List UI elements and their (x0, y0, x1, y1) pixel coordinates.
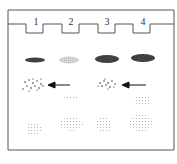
band-lane3-lower (96, 117, 112, 133)
lane-label-2: 2 (64, 16, 78, 27)
arrow-icon (122, 82, 146, 88)
band-lane2-faint (62, 96, 78, 100)
lane-label-3: 3 (100, 16, 114, 27)
band-lane4-upper (131, 54, 155, 62)
arrow-icon (48, 82, 70, 88)
band-lane1-lower (26, 122, 42, 136)
band-lane2-upper (59, 57, 79, 64)
lane-label-4: 4 (136, 16, 150, 27)
band-lane4-faint (134, 97, 150, 105)
gel-diagram (0, 0, 177, 164)
band-lane3-upper (95, 55, 119, 63)
band-lane3-speckled (97, 78, 115, 89)
band-lane2-lower (59, 117, 83, 131)
band-lane1-upper (25, 58, 45, 63)
lane-label-1: 1 (29, 16, 43, 27)
band-lane4-lower (129, 114, 153, 132)
band-lane1-speckled (22, 78, 43, 91)
